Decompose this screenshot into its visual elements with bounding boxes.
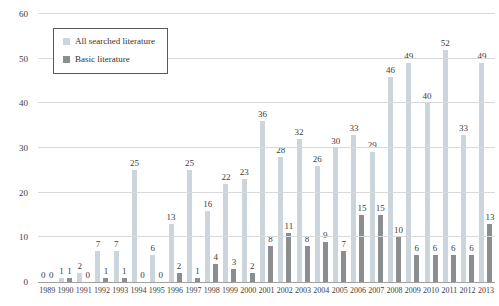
bar-group-2003: 328 [294,14,312,282]
bar-value-label: 23 [240,168,249,177]
bar-value-label: 32 [295,128,304,137]
bar-value-label: 36 [258,110,267,119]
y-tick-label-10: 10 [19,233,28,242]
bar-value-label: 1 [67,267,72,276]
bar-value-label: 33 [349,124,358,133]
bar-col-2000-s0: 23 [241,14,247,282]
bar-col-2009-s1: 6 [414,14,420,282]
x-axis-label-2000: 2000 [239,286,257,296]
bar [370,152,375,282]
x-axis-label-1995: 1995 [148,286,166,296]
bar-group-2001: 368 [257,14,275,282]
bar-col-2004-s1: 9 [322,14,328,282]
bar-value-label: 0 [49,271,54,280]
bar [77,273,82,282]
bar [433,255,438,282]
bar-col-1999-s0: 22 [223,14,229,282]
x-axis-label-1993: 1993 [111,286,129,296]
bar [132,170,137,282]
bar-value-label: 0 [140,271,145,280]
bar [205,211,210,282]
bar-value-label: 6 [415,244,420,253]
bar-col-2013-s0: 49 [479,14,485,282]
x-axis-label-2002: 2002 [276,286,294,296]
bar-group-1999: 223 [221,14,239,282]
bar [388,77,393,282]
bar [122,278,127,282]
bar-group-2007: 2915 [367,14,385,282]
bar [396,237,401,282]
bar-value-label: 4 [213,253,218,262]
bar [469,255,474,282]
bar-value-label: 7 [96,240,101,249]
bar-group-2000: 232 [239,14,257,282]
bar-value-label: 2 [177,262,182,271]
bar [278,157,283,282]
bar-col-2001-s0: 36 [260,14,266,282]
y-tick-label-30: 30 [19,144,28,153]
x-axis-label-1997: 1997 [184,286,202,296]
bar-group-2010: 406 [422,14,440,282]
bar [425,103,430,282]
gridline-40 [38,102,495,103]
bar-value-label: 25 [185,159,194,168]
bar-value-label: 26 [313,155,322,164]
bar-col-2011-s0: 52 [442,14,448,282]
bar-group-2004: 269 [312,14,330,282]
x-axis-label-1999: 1999 [221,286,239,296]
x-axis: 1989199019911992199319941995199619971998… [38,286,495,296]
bar-value-label: 30 [331,137,340,146]
x-axis-label-1992: 1992 [93,286,111,296]
y-axis: 0102030405060 [0,14,34,282]
bar-group-2008: 4610 [385,14,403,282]
bar-value-label: 6 [469,244,474,253]
legend-item-basic: Basic literature [63,55,155,64]
bar [95,251,100,282]
bar-group-2009: 496 [404,14,422,282]
x-axis-label-2013: 2013 [477,286,495,296]
bar [59,278,64,282]
bar [461,135,466,282]
bar-value-label: 0 [41,271,46,280]
bar [351,135,356,282]
bar-value-label: 10 [394,226,403,235]
x-axis-label-2008: 2008 [385,286,403,296]
bar-value-label: 2 [250,262,255,271]
bar [487,224,492,282]
bar-value-label: 25 [130,159,139,168]
bar-group-2011: 526 [440,14,458,282]
bar-col-2002-s1: 11 [286,14,292,282]
x-axis-label-2001: 2001 [257,286,275,296]
x-axis-label-2010: 2010 [422,286,440,296]
bar [195,278,200,282]
legend-label-basic: Basic literature [75,55,130,64]
x-axis-label-1991: 1991 [75,286,93,296]
bar [242,179,247,282]
bar-col-2008-s0: 46 [387,14,393,282]
legend-label-all-searched: All searched literature [75,37,155,46]
bar-group-2013: 4913 [477,14,495,282]
bar-col-2003-s0: 32 [296,14,302,282]
bar [187,170,192,282]
y-tick-label-50: 50 [19,54,28,63]
x-axis-label-2011: 2011 [440,286,458,296]
bar-value-label: 1 [104,267,109,276]
bar-value-label: 9 [323,231,328,240]
bar-col-2010-s1: 6 [432,14,438,282]
gridline-10 [38,236,495,237]
bar-value-label: 1 [59,267,64,276]
bar-value-label: 15 [357,204,366,213]
bar-value-label: 1 [122,267,127,276]
bar-group-1996: 132 [166,14,184,282]
x-axis-label-1998: 1998 [203,286,221,296]
x-axis-label-2006: 2006 [349,286,367,296]
bar [268,246,273,282]
bar-col-2000-s1: 2 [249,14,255,282]
x-axis-label-1994: 1994 [129,286,147,296]
x-axis-label-2005: 2005 [331,286,349,296]
bar-value-label: 6 [433,244,438,253]
bar [150,255,155,282]
bar-col-2003-s1: 8 [304,14,310,282]
bar [451,255,456,282]
bar [103,278,108,282]
